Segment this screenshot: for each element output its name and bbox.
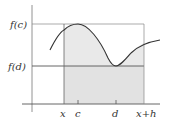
label-f-d: f(d) xyxy=(7,61,26,72)
lower-rectangle xyxy=(64,66,144,104)
label-x-plus-h: x+h xyxy=(136,108,156,119)
label-f-c: f(c) xyxy=(9,19,27,30)
label-d: d xyxy=(112,108,118,119)
label-x: x xyxy=(60,108,66,119)
diagram: f(c) f(d) x c d x+h xyxy=(0,0,169,126)
label-c: c xyxy=(75,108,81,119)
